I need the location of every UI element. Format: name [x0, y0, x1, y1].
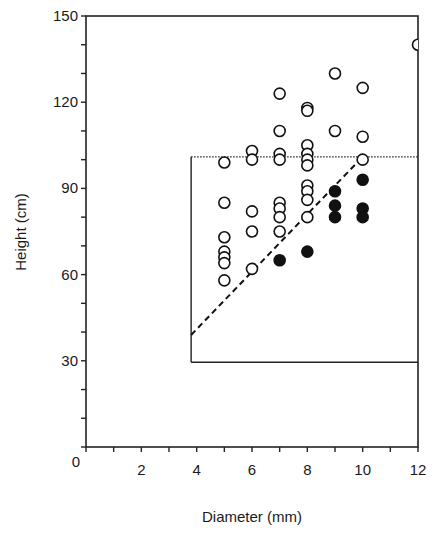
open-circle-marker [247, 206, 258, 217]
dashed-threshold-line [191, 157, 363, 335]
open-circle-marker [302, 212, 313, 223]
open-circle-marker [357, 131, 368, 142]
x-tick-label: 6 [248, 461, 256, 478]
origin-label: 0 [72, 453, 80, 470]
open-circle-marker [413, 39, 424, 50]
open-circle-marker [302, 194, 313, 205]
open-circle-marker [219, 197, 230, 208]
open-circle-marker [302, 160, 313, 171]
filled-circle-marker [330, 212, 341, 223]
x-axis-ticks: 246810120 [72, 447, 427, 478]
open-circle-marker [274, 212, 285, 223]
filled-circle-marker [357, 174, 368, 185]
x-tick-label: 2 [137, 461, 145, 478]
y-tick-label: 30 [61, 352, 78, 369]
x-tick-label: 4 [192, 461, 200, 478]
open-circle-marker [302, 105, 313, 116]
open-circle-marker [219, 258, 230, 269]
open-circle-marker [357, 154, 368, 165]
scatter-chart: 246810120 306090120150 Diameter (mm) Hei… [0, 0, 440, 534]
filled-circle-marker [330, 186, 341, 197]
open-circle-marker [219, 275, 230, 286]
y-tick-label: 150 [53, 7, 78, 24]
open-circle-marker [274, 226, 285, 237]
open-circle-marker [219, 232, 230, 243]
x-tick-label: 10 [354, 461, 371, 478]
x-axis-title: Diameter (mm) [202, 508, 302, 525]
x-tick-label: 8 [303, 461, 311, 478]
y-tick-label: 120 [53, 93, 78, 110]
open-circle-marker [357, 82, 368, 93]
open-circle-marker [274, 88, 285, 99]
open-circle-marker [247, 263, 258, 274]
y-tick-label: 60 [61, 266, 78, 283]
open-circle-marker [330, 125, 341, 136]
open-circle-marker [247, 226, 258, 237]
open-circle-marker [330, 68, 341, 79]
data-points [219, 39, 424, 286]
filled-circle-marker [302, 246, 313, 257]
open-circle-marker [274, 125, 285, 136]
open-circle-marker [219, 157, 230, 168]
open-circle-marker [274, 154, 285, 165]
x-tick-label: 12 [410, 461, 427, 478]
y-axis-title: Height (cm) [12, 193, 29, 271]
point-layer [219, 39, 424, 286]
y-tick-label: 90 [61, 179, 78, 196]
open-circle-marker [247, 154, 258, 165]
filled-circle-marker [274, 255, 285, 266]
filled-circle-marker [357, 212, 368, 223]
y-axis-ticks: 306090120150 [53, 7, 86, 447]
filled-circle-marker [330, 200, 341, 211]
